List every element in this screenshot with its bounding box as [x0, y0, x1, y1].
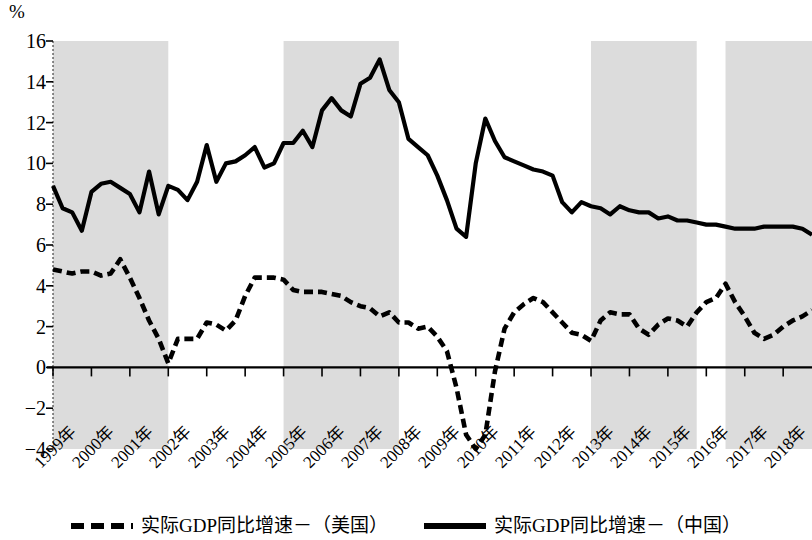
recession-shading-bands [53, 41, 812, 449]
shaded-band [53, 41, 168, 449]
legend-solid-line-icon [424, 523, 486, 529]
shaded-band [284, 41, 399, 449]
chart-figure: % 1614121086420−2−4 1999年2000年2001年2002年… [0, 0, 812, 540]
legend-entry: 实际GDP同比增速－（美国） [71, 515, 388, 537]
shaded-band [726, 41, 812, 449]
chart-plot-area [0, 0, 812, 470]
legend-label: 实际GDP同比增速－（中国） [494, 515, 741, 537]
shaded-band [591, 41, 697, 449]
legend-dashed-line-icon [71, 523, 133, 529]
legend-entry: 实际GDP同比增速－（中国） [424, 515, 741, 537]
legend-label: 实际GDP同比增速－（美国） [141, 515, 388, 537]
chart-legend: 实际GDP同比增速－（美国）实际GDP同比增速－（中国） [0, 512, 812, 540]
